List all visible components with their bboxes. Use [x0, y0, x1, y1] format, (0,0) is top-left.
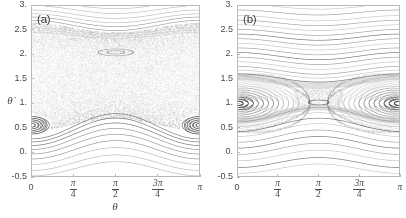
y-tick-mark — [31, 54, 34, 55]
x-tick-mark — [277, 174, 278, 177]
y-tick-mark — [31, 103, 34, 104]
x-tick-label: 3π4 — [143, 179, 173, 200]
y-tick-mark — [237, 54, 240, 55]
x-tick-value: 0 — [234, 182, 239, 192]
x-tick-mark — [200, 174, 201, 177]
y-tick-mark — [237, 5, 240, 6]
x-tick-value: π — [198, 182, 203, 192]
y-tick-mark — [31, 78, 34, 79]
x-tick-fraction: 3π4 — [353, 179, 365, 200]
y-tick-label: 2.5 — [3, 25, 27, 34]
panel-a-plot-area — [32, 6, 199, 176]
panel-b-plot-area — [238, 6, 399, 176]
x-tick-mark — [157, 174, 158, 177]
panel-a: (a) — [31, 5, 200, 177]
y-tick-label: 0. — [209, 147, 233, 156]
x-tick-mark — [73, 174, 74, 177]
x-tick-label: 3π4 — [344, 179, 374, 200]
y-tick-mark — [31, 29, 34, 30]
x-tick-value: π — [398, 182, 403, 192]
x-tick-label: π4 — [263, 179, 293, 200]
x-tick-mark — [115, 174, 116, 177]
x-tick-label: 0 — [16, 183, 46, 192]
y-tick-label: 2. — [3, 49, 27, 58]
x-tick-value: 0 — [28, 182, 33, 192]
y-tick-label: 0.5 — [3, 123, 27, 132]
x-tick-label: 0 — [222, 183, 252, 192]
y-tick-mark — [237, 127, 240, 128]
x-tick-fraction: 3π4 — [152, 179, 164, 200]
y-tick-mark — [237, 103, 240, 104]
y-tick-mark — [237, 152, 240, 153]
y-tick-label: -0.5 — [3, 172, 27, 181]
fraction-denominator: 4 — [152, 190, 164, 200]
panel-b: (b) — [237, 5, 400, 177]
fraction-denominator: 2 — [112, 190, 119, 200]
x-tick-fraction: π4 — [274, 179, 281, 200]
x-tick-label: π — [385, 183, 406, 193]
y-tick-mark — [237, 29, 240, 30]
poincare-section-figure: (a) (b) 3.2.52.1.51.0.50.-0.50π4π23π4π3.… — [0, 0, 406, 218]
x-tick-mark — [31, 174, 32, 177]
fraction-denominator: 2 — [315, 190, 322, 200]
fraction-denominator: 4 — [70, 190, 77, 200]
x-tick-label: π4 — [58, 179, 88, 200]
y-tick-label: 3. — [209, 0, 233, 9]
x-tick-fraction: π2 — [112, 179, 119, 200]
y-tick-label: 1.5 — [209, 74, 233, 83]
y-tick-label: -0.5 — [209, 172, 233, 181]
fraction-denominator: 4 — [274, 190, 281, 200]
x-tick-fraction: π4 — [70, 179, 77, 200]
y-tick-label: 2.5 — [209, 25, 233, 34]
x-tick-label: π2 — [304, 179, 334, 200]
x-tick-mark — [318, 174, 319, 177]
y-tick-mark — [31, 152, 34, 153]
fraction-denominator: 4 — [353, 190, 365, 200]
x-tick-label: π2 — [101, 179, 131, 200]
y-tick-label: 1.5 — [3, 74, 27, 83]
panel-b-caption: (b) — [243, 13, 256, 25]
y-axis-label-a: θ̇ — [3, 94, 17, 106]
y-tick-label: 3. — [3, 0, 27, 9]
y-tick-label: 1. — [209, 98, 233, 107]
x-tick-mark — [237, 174, 238, 177]
y-tick-mark — [31, 5, 34, 6]
y-tick-mark — [237, 78, 240, 79]
x-tick-mark — [359, 174, 360, 177]
y-tick-label: 0.5 — [209, 123, 233, 132]
panel-a-caption: (a) — [37, 13, 50, 25]
x-tick-label: π — [185, 183, 215, 193]
y-tick-label: 0. — [3, 147, 27, 156]
x-axis-label-a: θ — [108, 200, 122, 212]
y-tick-mark — [31, 127, 34, 128]
x-tick-fraction: π2 — [315, 179, 322, 200]
y-tick-label: 2. — [209, 49, 233, 58]
x-tick-mark — [400, 174, 401, 177]
